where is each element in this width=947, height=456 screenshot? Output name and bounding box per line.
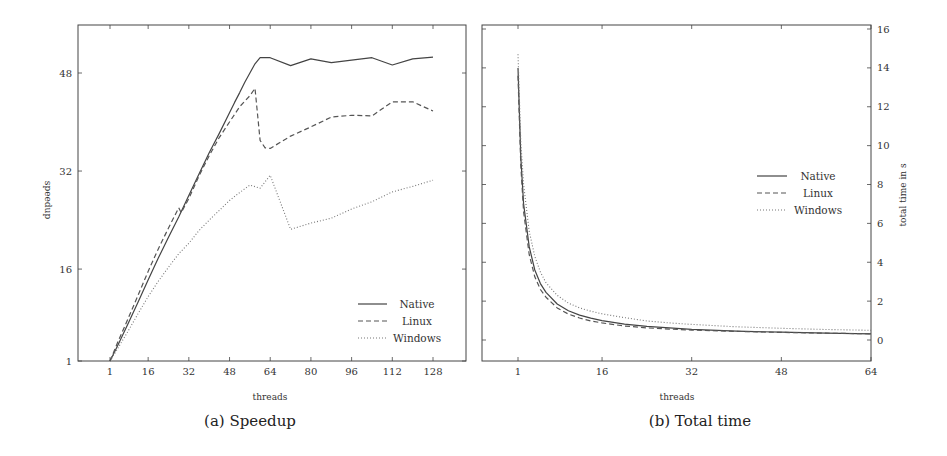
x-tick-label: 48 xyxy=(775,366,788,377)
x-tick-label: 128 xyxy=(423,366,442,377)
figure: 11632486480961121281163248 NativeLinuxWi… xyxy=(0,0,947,456)
x-tick-label: 16 xyxy=(596,366,609,377)
y-tick-label: 2 xyxy=(877,296,883,307)
series-line-windows xyxy=(110,175,433,361)
total-time-x-axis-label: threads xyxy=(660,392,695,402)
speedup-x-axis-label: threads xyxy=(253,392,288,402)
series-line-linux xyxy=(110,88,433,361)
legend-label: Native xyxy=(800,170,835,182)
legend-label: Windows xyxy=(794,204,842,216)
legend-label: Linux xyxy=(803,187,833,199)
x-tick-label: 32 xyxy=(685,366,698,377)
y-tick-label: 16 xyxy=(59,264,72,275)
legend-label: Windows xyxy=(393,332,441,344)
total-time-y-axis-label: total time in s xyxy=(898,163,908,227)
y-tick-label: 8 xyxy=(877,179,883,190)
legend-label: Linux xyxy=(402,315,432,327)
speedup-legend: NativeLinuxWindows xyxy=(358,298,441,344)
legend-item-native: Native xyxy=(757,170,836,182)
y-tick-label: 14 xyxy=(877,62,890,73)
total-time-legend: NativeLinuxWindows xyxy=(757,170,842,216)
legend-item-linux: Linux xyxy=(358,315,432,327)
speedup-caption: (a) Speedup xyxy=(204,412,296,430)
y-tick-label: 0 xyxy=(877,335,883,346)
speedup-plot-frame xyxy=(78,25,466,361)
x-tick-label: 64 xyxy=(264,366,277,377)
y-tick-label: 1 xyxy=(66,356,72,367)
series-line-native xyxy=(110,57,433,361)
y-tick-label: 16 xyxy=(877,24,890,35)
y-tick-label: 32 xyxy=(59,166,72,177)
x-tick-label: 96 xyxy=(345,366,358,377)
legend-item-native: Native xyxy=(358,298,435,310)
y-tick-label: 10 xyxy=(877,140,890,151)
speedup-y-axis-label: speedup xyxy=(43,181,53,220)
x-tick-label: 48 xyxy=(223,366,236,377)
x-tick-label: 64 xyxy=(865,366,878,377)
x-tick-label: 32 xyxy=(182,366,195,377)
y-tick-label: 6 xyxy=(877,218,883,229)
x-tick-label: 1 xyxy=(107,366,113,377)
x-tick-label: 80 xyxy=(305,366,318,377)
legend-item-windows: Windows xyxy=(757,204,842,216)
y-tick-label: 4 xyxy=(877,257,883,268)
y-tick-label: 12 xyxy=(877,101,890,112)
speedup-chart: 11632486480961121281163248 NativeLinuxWi… xyxy=(43,25,466,430)
legend-label: Native xyxy=(399,298,434,310)
total-time-axis-ticks: 1163248640246810121416 xyxy=(482,24,890,378)
series-line-native xyxy=(518,68,871,334)
x-tick-label: 1 xyxy=(515,366,521,377)
legend-item-windows: Windows xyxy=(358,332,441,344)
legend-item-linux: Linux xyxy=(757,187,833,199)
total-time-caption: (b) Total time xyxy=(649,412,752,430)
x-tick-label: 112 xyxy=(383,366,402,377)
speedup-plot-lines xyxy=(110,57,433,361)
total-time-chart: 1163248640246810121416 NativeLinuxWindow… xyxy=(482,24,908,431)
y-tick-label: 48 xyxy=(59,68,72,79)
x-tick-label: 16 xyxy=(142,366,155,377)
